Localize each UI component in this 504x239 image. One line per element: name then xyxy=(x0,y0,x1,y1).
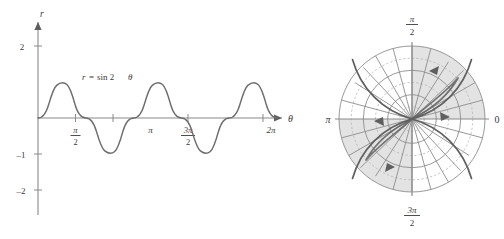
x-axis xyxy=(38,114,282,121)
svg-text:2: 2 xyxy=(410,27,415,37)
x-tick-label-pi: π xyxy=(148,125,153,135)
polar-angle-label-right: 0 xyxy=(495,114,500,125)
shaded-quadrant-III xyxy=(339,119,412,192)
cartesian-x-axis-label: θ xyxy=(288,113,293,124)
svg-text:2: 2 xyxy=(410,218,415,228)
polar-angle-label-top: π 2 xyxy=(406,14,418,37)
y-tick-label-2: 2 xyxy=(20,42,25,52)
svg-text:2: 2 xyxy=(73,137,77,147)
svg-text:=: = xyxy=(89,72,94,82)
cartesian-equation-label: r = sin 2 θ xyxy=(82,72,133,82)
x-tick-group: π 2 π 3π 2 2π xyxy=(71,114,276,147)
svg-text:sin 2: sin 2 xyxy=(97,72,114,82)
figure-container: r θ 2 –1 –2 π 2 xyxy=(0,0,504,239)
svg-text:2: 2 xyxy=(186,137,190,147)
svg-text:r: r xyxy=(82,72,86,82)
figure-svg: r θ 2 –1 –2 π 2 xyxy=(0,0,504,239)
cartesian-y-axis-label: r xyxy=(40,9,44,19)
cartesian-plot: r θ 2 –1 –2 π 2 xyxy=(16,9,294,215)
y-tick-label-neg1: –1 xyxy=(16,150,26,160)
shaded-quadrant-I xyxy=(412,46,485,119)
polar-plot: π 2 0 3π 2 π xyxy=(325,14,499,228)
x-tick-label-pi-over-2: π 2 xyxy=(71,125,81,147)
svg-text:3π: 3π xyxy=(406,205,417,215)
x-tick-label-2pi: 2π xyxy=(266,125,276,135)
polar-angle-label-bottom: 3π 2 xyxy=(404,205,420,228)
y-tick-label-neg2: –2 xyxy=(16,186,26,196)
svg-text:π: π xyxy=(73,125,78,135)
svg-text:θ: θ xyxy=(128,72,133,82)
svg-text:π: π xyxy=(410,14,415,24)
polar-angle-label-left: π xyxy=(325,114,331,125)
